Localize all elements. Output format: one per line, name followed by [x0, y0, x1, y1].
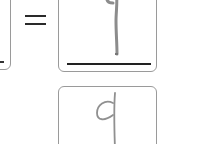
handwritten-numerator-9: [99, 0, 129, 57]
fraction-line: [67, 63, 151, 65]
equals-bar-bottom: [25, 23, 46, 25]
equals-bar-top: [25, 15, 46, 17]
equals-sign: [25, 14, 47, 28]
handwritten-answer-9: [93, 91, 123, 144]
left-fraction-line: [0, 61, 4, 63]
right-fraction-box[interactable]: [58, 0, 157, 72]
answer-box[interactable]: [58, 86, 157, 144]
left-fraction-box[interactable]: [0, 0, 11, 70]
